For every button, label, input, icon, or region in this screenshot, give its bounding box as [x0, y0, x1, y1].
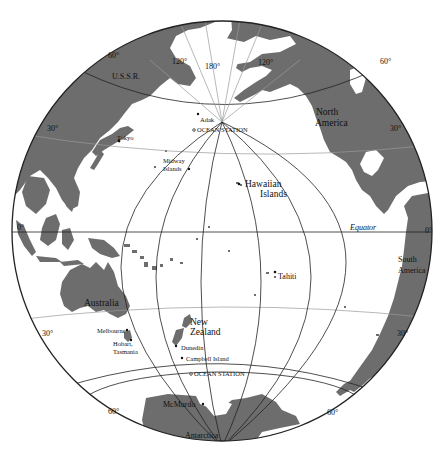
- label-hawaiian-2: Islands: [260, 189, 287, 199]
- label-new-zealand-1: New: [190, 317, 208, 327]
- marker-mcmurdo: [202, 403, 204, 405]
- marker-hawaii: [238, 183, 241, 186]
- label-lat-60s-left: 60°: [108, 407, 119, 416]
- label-midway-1: Midway: [163, 157, 185, 164]
- label-hobart-2: Tasmania: [113, 348, 138, 355]
- label-melbourne: Melbourne: [97, 327, 126, 334]
- label-hawaiian-1: Hawaiian: [245, 179, 282, 189]
- label-meridian-180: 180°: [205, 62, 220, 71]
- label-ocean-station-north: OCEAN STATION: [197, 126, 248, 133]
- label-lat-0-right: 0°: [425, 226, 432, 235]
- label-ocean-station-south: OCEAN STATION: [194, 370, 245, 377]
- label-lat-0-left: 0°: [17, 223, 24, 232]
- label-australia: Australia: [84, 298, 120, 308]
- marker-melbourne: [126, 329, 128, 331]
- label-campbell-island: Campbell Island: [186, 355, 230, 362]
- label-lat-30s-left: 30°: [42, 329, 53, 338]
- label-tahiti: Tahiti: [278, 272, 297, 281]
- marker-ocean-station-south: [190, 373, 193, 376]
- label-mcmurdo: McMurdo: [163, 400, 195, 409]
- label-meridian-120w: 120°: [258, 58, 273, 67]
- label-south-america-1: South: [398, 255, 417, 264]
- label-lat-30n-left: 30°: [47, 124, 58, 133]
- label-midway-2: Islands: [163, 165, 182, 172]
- marker-adak: [197, 113, 199, 115]
- label-adak: Adak: [200, 116, 215, 123]
- marker-ocean-station-north: [193, 129, 196, 132]
- label-lat-60s-right: 60°: [327, 408, 338, 417]
- marker-dunedin: [175, 345, 177, 347]
- label-antarctica: Antarctica: [185, 431, 219, 440]
- label-north-america-1: North: [316, 107, 338, 117]
- label-hobart-1: Hobart,: [113, 340, 133, 347]
- marker-campbell-island: [181, 357, 183, 359]
- label-north-america-2: America: [315, 118, 348, 128]
- marker-midway: [188, 168, 190, 170]
- label-south-america-2: America: [398, 266, 426, 275]
- label-ussr: U.S.S.R.: [112, 72, 140, 81]
- label-new-zealand-2: Zealand: [190, 327, 221, 337]
- marker-tahiti: [274, 271, 277, 274]
- label-equator: Equator: [349, 223, 377, 232]
- label-lat-30s-right: 30°: [397, 329, 408, 338]
- pacific-globe-map: 120° 180° 120° 60° 60° 30° 30° 0° 0° 30°…: [0, 0, 443, 459]
- label-lat-60n-left: 60°: [108, 51, 119, 60]
- label-meridian-120e: 120°: [172, 57, 187, 66]
- label-dunedin: Dunedin: [181, 344, 204, 351]
- label-lat-30n-right: 30°: [390, 124, 401, 133]
- label-lat-60n-right: 60°: [380, 57, 391, 66]
- label-tokyo: Tokyo: [117, 134, 134, 141]
